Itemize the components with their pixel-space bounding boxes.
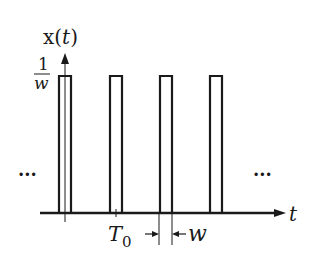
pulse-3 xyxy=(160,76,172,213)
amplitude-denominator: w xyxy=(34,73,49,93)
pulse-2 xyxy=(110,76,122,213)
pulses xyxy=(59,76,222,213)
ellipsis-right: ··· xyxy=(253,164,272,185)
pulse-train-diagram: x(t) 1 w ··· ··· t T 0 w xyxy=(0,0,311,260)
amplitude-axis-arrow-icon xyxy=(61,53,69,64)
time-axis-arrow-icon xyxy=(274,209,286,217)
width-arrow-right-icon xyxy=(172,231,179,237)
ellipsis-left: ··· xyxy=(18,164,37,185)
width-arrow-left-icon xyxy=(152,231,159,237)
amplitude-numerator: 1 xyxy=(38,54,49,74)
x-axis-label: t xyxy=(289,202,298,226)
pulse-4 xyxy=(210,76,222,213)
period-label-subscript: 0 xyxy=(122,233,132,251)
y-axis-label: x(t) xyxy=(43,25,78,49)
width-label: w xyxy=(188,221,207,246)
